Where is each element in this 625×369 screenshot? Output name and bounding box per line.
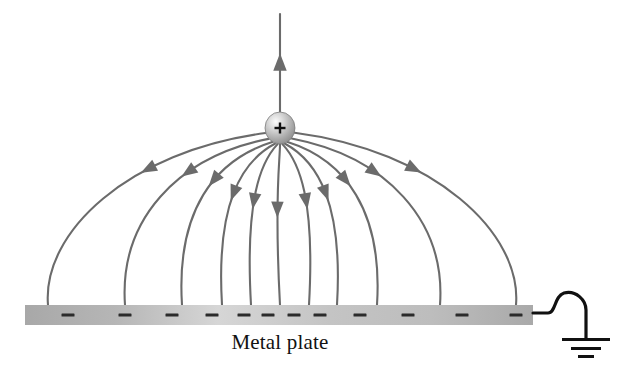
- field-line-L1: [48, 133, 266, 305]
- field-line-C0: [277, 144, 280, 305]
- ground-bar-2: [571, 347, 601, 350]
- field-arrowhead-R1: [404, 160, 421, 173]
- plate-minus-sign-3: [166, 314, 179, 317]
- plate-minus-sign-8: [314, 314, 327, 317]
- field-arrowhead-R5: [299, 192, 311, 209]
- field-diagram-svg: [0, 0, 625, 369]
- field-diagram-canvas: Metal plate: [0, 0, 625, 369]
- field-arrowhead-L5: [249, 192, 261, 209]
- ground-bar-1: [562, 338, 610, 341]
- plate-minus-sign-12: [510, 314, 523, 317]
- plate-minus-sign-6: [262, 314, 275, 317]
- charge-plus-vertical: [279, 123, 281, 134]
- field-line-R1: [295, 133, 517, 305]
- field-line-L4: [221, 144, 275, 305]
- ground-bar-3: [578, 355, 594, 358]
- field-arrowhead-L4: [231, 183, 243, 200]
- plate-minus-sign-11: [456, 314, 469, 317]
- field-line-L5: [250, 144, 278, 305]
- point-charge-group: [265, 112, 295, 144]
- field-arrowhead-L2: [182, 162, 199, 176]
- field-line-L2: [125, 139, 269, 305]
- field-line-R2: [292, 139, 441, 305]
- plate-minus-sign-7: [288, 314, 301, 317]
- plate-minus-sign-2: [119, 314, 132, 317]
- plate-minus-sign-1: [62, 314, 75, 317]
- plate-minus-sign-5: [238, 314, 251, 317]
- field-arrowhead-R2: [365, 162, 382, 176]
- field-line-R5: [282, 144, 310, 305]
- plate-label: Metal plate: [0, 330, 560, 355]
- field-arrowhead-R4: [317, 183, 329, 200]
- field-line-R4: [285, 144, 338, 305]
- plate-minus-sign-10: [402, 314, 415, 317]
- field-arrowhead-up: [273, 53, 286, 70]
- metal-plate-group: [25, 305, 533, 325]
- field-line-R3: [288, 142, 378, 305]
- field-arrowhead-C0: [271, 202, 283, 218]
- plate-minus-sign-4: [206, 314, 219, 317]
- field-lines-group: [48, 14, 517, 305]
- field-arrowhead-L1: [141, 160, 158, 173]
- plate-minus-sign-9: [354, 314, 367, 317]
